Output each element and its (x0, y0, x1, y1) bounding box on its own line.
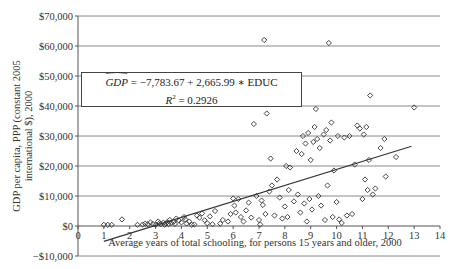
data-point-diamond (119, 217, 124, 222)
y-axis-tick-labels: −$10,000$0$10,000$20,000$30,000$40,000$5… (33, 11, 73, 262)
data-point-diamond (286, 187, 291, 192)
data-point-diamond (344, 213, 349, 218)
equation-rhs: = −7,783.67 + 2,665.99 ∗ EDUC (131, 76, 278, 88)
data-point-diamond (368, 93, 373, 98)
data-point-diamond (268, 156, 273, 161)
data-point-diamond (263, 211, 268, 216)
data-point-diamond (362, 177, 367, 182)
data-point-diamond (275, 177, 280, 182)
data-point-diamond (243, 208, 248, 213)
y-tick-label: $50,000 (39, 71, 73, 82)
horizontal-gridlines (75, 16, 440, 256)
data-point-diamond (207, 214, 212, 219)
data-point-diamond (231, 196, 236, 201)
data-point-diamond (308, 157, 313, 162)
data-point-diamond (233, 210, 238, 215)
data-point-diamond (246, 200, 251, 205)
scatter-chart: −$10,000$0$10,000$20,000$30,000$40,000$5… (0, 0, 450, 269)
data-point-diamond (251, 121, 256, 126)
data-point-diamond (282, 204, 287, 209)
data-point-diamond (349, 211, 354, 216)
data-point-diamond (311, 139, 316, 144)
data-point-diamond (393, 154, 398, 159)
r-squared-line: R2 = 0.2926 (82, 90, 301, 108)
data-point-diamond (262, 37, 267, 42)
x-tick-label: 13 (409, 230, 420, 241)
data-point-diamond (302, 201, 307, 206)
y-tick-label: $20,000 (39, 161, 73, 172)
x-tick-label: 14 (435, 230, 446, 241)
data-point-diamond (264, 111, 269, 116)
data-point-diamond (135, 222, 140, 227)
data-point-diamond (365, 187, 370, 192)
data-point-diamond (322, 217, 327, 222)
data-point-diamond (294, 148, 299, 153)
data-point-diamond (378, 145, 383, 150)
data-point-diamond (334, 199, 339, 204)
y-tick-label: $40,000 (39, 101, 73, 112)
data-point-diamond (228, 211, 233, 216)
data-point-diamond (303, 141, 308, 146)
x-axis-title: Average years of total schooling, for pe… (108, 237, 402, 248)
data-point-diamond (313, 106, 318, 111)
y-axis-title: GDP per capita, PPP (constant 2005intern… (11, 60, 35, 211)
regression-line (104, 146, 412, 241)
data-point-diamond (324, 127, 329, 132)
data-point-diamond (315, 136, 320, 141)
data-point-diamond (355, 123, 360, 128)
data-point-diamond (318, 203, 323, 208)
data-point-diamond (328, 138, 333, 143)
data-point-diamond (232, 203, 237, 208)
data-point-diamond (317, 145, 322, 150)
y-tick-label: $70,000 (39, 11, 73, 22)
data-point-diamond (312, 124, 317, 129)
data-point-diamond (241, 219, 246, 224)
data-point-diamond (307, 196, 312, 201)
data-point-diamond (330, 214, 335, 219)
data-point-diamond (357, 126, 362, 131)
y-tick-label: $0 (63, 221, 74, 232)
data-point-diamond (373, 186, 378, 191)
data-point-diamond (304, 219, 309, 224)
data-point-diamond (238, 214, 243, 219)
data-point-diamond (364, 124, 369, 129)
data-point-diamond (325, 183, 330, 188)
data-point-diamond (291, 199, 296, 204)
data-point-diamond (360, 196, 365, 201)
y-tick-label: $60,000 (39, 41, 73, 52)
data-point-diamond (329, 120, 334, 125)
data-point-diamond (298, 210, 303, 215)
data-point-diamond (280, 216, 285, 221)
data-point-diamond (382, 136, 387, 141)
gdp-hat-symbol: GDP (105, 75, 128, 90)
data-point-diamond (269, 183, 274, 188)
r-squared-value: = 0.2926 (178, 94, 217, 106)
regression-equation-box: GDP = −7,783.67 + 2,665.99 ∗ EDUC R2 = 0… (81, 72, 302, 107)
data-point-diamond (299, 151, 304, 156)
data-point-diamond (285, 214, 290, 219)
data-points (101, 37, 416, 227)
data-point-diamond (249, 215, 254, 220)
data-point-diamond (383, 174, 388, 179)
data-point-diamond (309, 207, 314, 212)
data-point-diamond (225, 219, 230, 224)
data-point-diamond (212, 208, 217, 213)
x-tick-label: 1 (101, 230, 106, 241)
y-tick-label: $30,000 (39, 131, 73, 142)
data-point-diamond (205, 221, 210, 226)
data-point-diamond (272, 213, 277, 218)
data-point-diamond (306, 130, 311, 135)
data-point-diamond (326, 40, 331, 45)
y-tick-label: −$10,000 (33, 251, 73, 262)
x-tick-label: 0 (75, 230, 80, 241)
data-point-diamond (202, 218, 207, 223)
y-tick-label: $10,000 (39, 191, 73, 202)
equation-line: GDP = −7,783.67 + 2,665.99 ∗ EDUC (82, 75, 301, 90)
